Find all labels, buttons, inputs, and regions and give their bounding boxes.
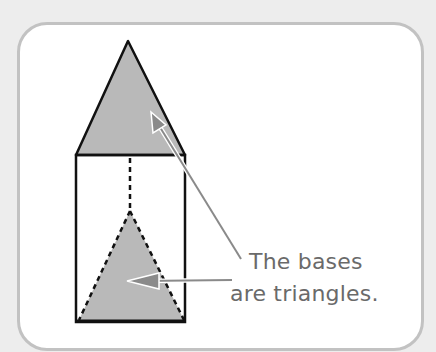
bottom-triangle-base	[79, 211, 184, 320]
annotation-line-2: are triangles.	[230, 279, 379, 309]
arrow-to-top-base	[151, 112, 241, 259]
annotation-line-1: The bases	[249, 247, 363, 277]
